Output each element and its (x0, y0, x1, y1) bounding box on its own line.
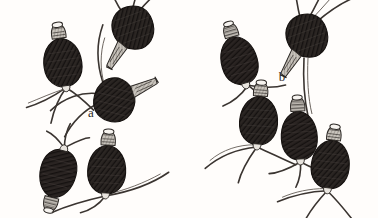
spines-a1 (25, 84, 95, 126)
organism-a4 (28, 119, 92, 218)
organism-a2 (77, 0, 195, 71)
spines-b5 (276, 183, 357, 218)
lorica-a5 (86, 128, 128, 200)
lorica-b4 (279, 94, 319, 166)
panel-label-b: b (279, 69, 286, 84)
lorica-a4 (31, 141, 83, 218)
organism-a1 (15, 19, 94, 126)
panel-label-a: a (88, 105, 94, 120)
panel-b: b (201, 0, 374, 218)
lorica-a1 (38, 20, 85, 95)
microscopy-illustration: a (0, 0, 378, 218)
organism-b2 (247, 0, 374, 79)
panel-a: a (15, 0, 195, 218)
figure-plate: a (0, 0, 378, 218)
lorica-b2 (263, 8, 337, 79)
